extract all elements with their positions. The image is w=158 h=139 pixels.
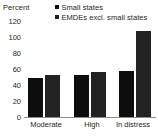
x-label-high: High (72, 120, 112, 129)
chart-legend: Small states EMDEs excl. small states (55, 2, 147, 22)
legend-item-small-states: Small states (55, 2, 147, 12)
x-axis-baseline (24, 117, 156, 118)
y-tick-120: 120 (8, 17, 21, 26)
bar-emdes-excl-small-states (91, 72, 106, 117)
y-tick-40: 40 (13, 81, 21, 90)
y-tick-60: 60 (13, 65, 21, 74)
bar-emdes-excl-small-states (136, 31, 151, 117)
legend-item-label: Small states (62, 3, 103, 12)
plot-area (24, 21, 156, 117)
legend-swatch-icon (55, 15, 59, 19)
x-label-moderate: Moderate (20, 120, 72, 129)
y-axis-tick-labels: 0 20 40 60 80 100 120 (0, 0, 21, 139)
bar-chart: Percent Small states EMDEs excl. small s… (0, 0, 158, 139)
y-tick-100: 100 (8, 33, 21, 42)
bar-small-states (28, 78, 43, 117)
y-tick-80: 80 (13, 49, 21, 58)
bar-small-states (74, 75, 89, 117)
bar-small-states (119, 71, 134, 117)
bar-emdes-excl-small-states (45, 75, 60, 117)
legend-swatch-icon (55, 5, 59, 9)
y-tick-20: 20 (13, 97, 21, 106)
x-label-in-distress: In distress (108, 120, 158, 129)
